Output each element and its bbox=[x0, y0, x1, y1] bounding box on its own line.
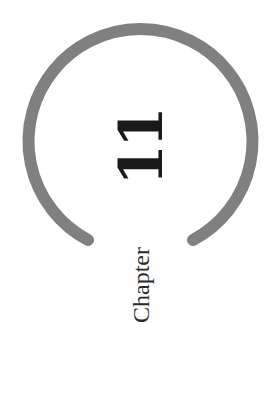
chapter-number: 11 bbox=[111, 110, 171, 186]
chapter-arc-ornament bbox=[0, 0, 267, 393]
chapter-label: Chapter bbox=[129, 247, 153, 323]
